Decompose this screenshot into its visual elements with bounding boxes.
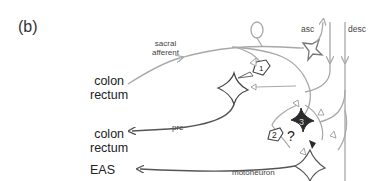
circuit-diagram: 1 3 2 ? bbox=[0, 0, 390, 181]
pre-pathway bbox=[132, 104, 234, 131]
motoneuron-cell bbox=[295, 148, 325, 181]
neuron-2-label: 2 bbox=[272, 130, 277, 140]
unknown-marker: ? bbox=[287, 128, 295, 144]
preganglionic-neuron bbox=[218, 72, 296, 104]
sacral-afferent-pathway bbox=[128, 22, 310, 120]
interneuron-asc bbox=[303, 40, 322, 60]
dark-terminal bbox=[309, 140, 316, 149]
neuron-1: 1 bbox=[250, 58, 270, 75]
motoneuron-pathway bbox=[140, 166, 295, 171]
drg-cell-body bbox=[251, 22, 263, 38]
neuron-2: 2 bbox=[268, 128, 283, 141]
neuron-3-label: 3 bbox=[299, 117, 304, 127]
neuron-1-label: 1 bbox=[259, 64, 264, 73]
